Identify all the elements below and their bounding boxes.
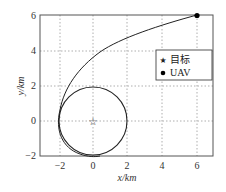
uav-marker-icon xyxy=(194,13,199,18)
svg-text:2: 2 xyxy=(31,80,36,91)
legend: ★ 目标 UAV xyxy=(156,50,212,80)
svg-text:6: 6 xyxy=(31,10,36,21)
x-axis-label: x/km xyxy=(117,172,137,183)
svg-text:4: 4 xyxy=(31,45,36,56)
legend-label-target: 目标 xyxy=(170,54,190,65)
svg-text:0: 0 xyxy=(91,160,96,171)
legend-label-uav: UAV xyxy=(170,67,191,78)
trajectory-chart: ☆ 6 4 2 0 −2 −2 0 2 4 6 x/km y/km ★ 目标 U… xyxy=(0,0,226,192)
y-axis-label: y/km xyxy=(15,77,26,97)
svg-text:−2: −2 xyxy=(25,150,36,161)
target-star-icon: ☆ xyxy=(89,116,98,127)
legend-dot-icon xyxy=(161,71,166,76)
svg-text:4: 4 xyxy=(160,160,165,171)
svg-text:6: 6 xyxy=(195,160,200,171)
x-tick-labels: −2 0 2 4 6 xyxy=(55,160,200,171)
svg-text:−2: −2 xyxy=(55,160,66,171)
axes-frame xyxy=(40,15,213,156)
grid xyxy=(40,15,213,156)
legend-star-icon: ★ xyxy=(159,56,166,65)
svg-text:2: 2 xyxy=(125,160,130,171)
svg-text:0: 0 xyxy=(31,115,36,126)
y-tick-labels: 6 4 2 0 −2 xyxy=(25,10,36,161)
